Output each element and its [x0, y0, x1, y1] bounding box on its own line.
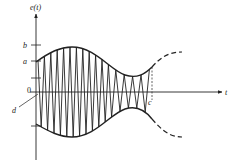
origin-label: 0: [27, 86, 31, 95]
upper-envelope-dashed: [152, 52, 182, 67]
waveform-diagram: e(t) t b a 0 d c: [0, 0, 239, 165]
marker-label-c: c: [148, 98, 152, 107]
y-axis-label: e(t): [30, 3, 41, 12]
lower-envelope-dashed: [152, 119, 182, 137]
pointer-label-d: d: [12, 106, 17, 115]
upper-envelope: [36, 47, 152, 76]
tick-label-a: a: [23, 57, 27, 66]
pointer-leader-line: [19, 94, 38, 107]
tick-label-b: b: [23, 41, 27, 50]
x-axis-label: t: [225, 88, 228, 97]
